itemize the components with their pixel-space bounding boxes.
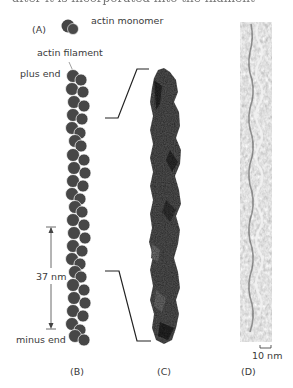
- scale-bar: [260, 345, 271, 348]
- actin-monomer-label: actin monomer: [91, 15, 163, 26]
- zoom-bracket-lines: [105, 69, 151, 341]
- actin-monomer-icon: [62, 20, 79, 35]
- panel-b-label: (B): [70, 366, 84, 377]
- actin-filament-icon: [66, 62, 92, 346]
- panel-d-label: (D): [241, 366, 256, 377]
- scale-bar-label: 10 nm: [252, 350, 282, 361]
- panel-c-label: (C): [157, 366, 171, 377]
- atomic-model-image: [149, 68, 181, 344]
- minus-end-label: minus end: [16, 334, 66, 345]
- panel-a-label: (A): [32, 24, 46, 35]
- plus-end-label: plus end: [20, 68, 61, 79]
- repeat-distance-label: 37 nm: [36, 271, 66, 282]
- figure-graphics: [0, 0, 293, 388]
- electron-micrograph-image: [240, 22, 272, 342]
- actin-filament-label: actin filament: [37, 47, 103, 58]
